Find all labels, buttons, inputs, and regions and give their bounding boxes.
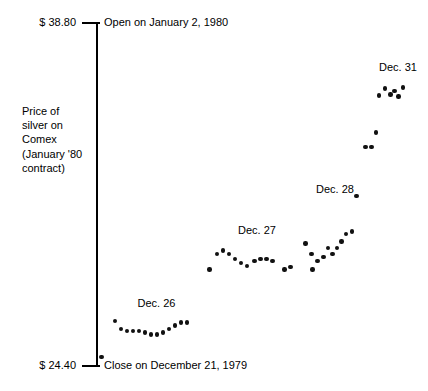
data-point [330,252,334,256]
plot-area: Dec. 26Dec. 27Dec. 28Dec. 31 [0,0,428,391]
silver-price-scatter-chart: $ 38.80 $ 24.40 Open on January 2, 1980 … [0,0,428,391]
data-point [270,259,274,263]
data-point [149,332,153,336]
data-point [185,320,189,324]
cluster-label-dec-26: Dec. 26 [138,297,176,309]
data-point [310,267,314,271]
cluster-label-dec-27: Dec. 27 [238,224,276,236]
data-point [264,257,268,261]
data-point [207,267,211,271]
data-point [125,329,129,333]
data-point [396,94,400,98]
data-point [173,323,177,327]
data-point [143,330,147,334]
data-point [137,329,141,333]
data-point [354,194,358,198]
data-point [392,89,396,93]
data-point [309,252,313,256]
data-point [363,145,367,149]
data-point [303,241,307,245]
data-point [383,86,387,90]
data-point [321,255,325,259]
data-point [252,259,256,263]
data-point [401,85,405,89]
cluster-label-dec-31: Dec. 31 [379,61,417,73]
data-point [221,248,225,252]
data-point [131,329,135,333]
data-point [288,265,292,269]
data-point [315,259,319,263]
data-point [215,252,219,256]
data-point [99,355,103,359]
data-point [377,93,381,97]
data-point [326,246,330,250]
data-point [113,319,117,323]
data-point [227,252,231,256]
data-point [388,92,392,96]
data-point [179,320,183,324]
data-point [233,257,237,261]
cluster-label-dec-28: Dec. 28 [316,183,354,195]
data-point [339,239,343,243]
data-point [374,130,378,134]
data-point [369,145,373,149]
data-point [258,257,262,261]
data-point [344,232,348,236]
data-point [335,246,339,250]
data-point [119,327,123,331]
data-point [282,267,286,271]
data-point [167,327,171,331]
data-point [245,264,249,268]
data-point [155,332,159,336]
data-point [161,330,165,334]
data-point [350,229,354,233]
data-point [239,261,243,265]
